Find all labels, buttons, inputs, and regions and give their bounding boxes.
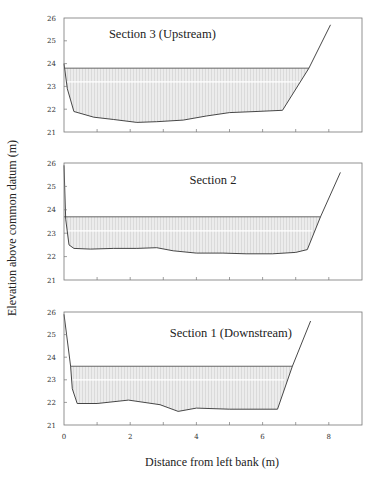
y-tick-label: 24	[47, 206, 56, 214]
y-tick-label: 25	[47, 331, 56, 339]
y-tick-label: 24	[47, 60, 56, 68]
panel-2: 212223242526Section 2	[47, 160, 362, 285]
water-area	[65, 68, 309, 122]
y-tick-label: 26	[47, 309, 56, 317]
panel-title: Section 3 (Upstream)	[109, 27, 216, 41]
panel-title: Section 2	[190, 173, 237, 187]
y-tick-label: 23	[47, 83, 56, 91]
y-tick-label: 26	[47, 15, 56, 23]
x-axis-title: Distance from left bank (m)	[145, 455, 279, 469]
y-axis-title: Elevation above common datum (m)	[5, 140, 19, 316]
x-tick-label: 8	[327, 433, 331, 441]
cross-section-figure: 212223242526Section 3 (Upstream)21222324…	[0, 0, 385, 481]
x-tick-label: 4	[194, 433, 199, 441]
y-tick-label: 22	[47, 106, 56, 114]
panels: 212223242526Section 3 (Upstream)21222324…	[47, 15, 362, 442]
y-tick-label: 25	[47, 37, 56, 45]
y-tick-label: 22	[47, 253, 56, 261]
panel-1: 212223242526Section 3 (Upstream)	[47, 15, 362, 137]
y-tick-label: 26	[47, 160, 56, 168]
y-tick-label: 22	[47, 399, 56, 407]
y-tick-label: 21	[47, 129, 56, 137]
y-tick-label: 23	[47, 376, 56, 384]
panel-title: Section 1 (Downstream)	[170, 326, 292, 340]
y-tick-label: 21	[47, 277, 56, 285]
x-tick-label: 6	[260, 433, 265, 441]
y-tick-label: 25	[47, 183, 56, 191]
water-area	[71, 366, 293, 411]
x-tick-label: 2	[128, 433, 132, 441]
y-tick-label: 21	[47, 422, 56, 430]
y-tick-label: 24	[47, 354, 56, 362]
panel-3: 212223242526Section 1 (Downstream)02468	[47, 309, 362, 442]
x-tick-label: 0	[62, 433, 66, 441]
y-tick-label: 23	[47, 230, 56, 238]
